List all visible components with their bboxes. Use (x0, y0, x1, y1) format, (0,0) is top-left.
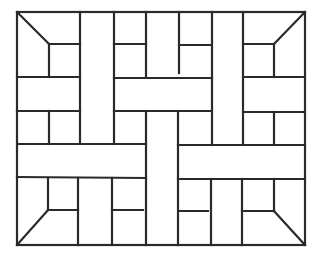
diagram-canvas: Basket-weave parquet tile pattern (0, 0, 318, 263)
pattern-line (274, 211, 305, 245)
pattern-line (17, 12, 49, 44)
pattern-line (274, 12, 305, 44)
basket-weave-pattern: Basket-weave parquet tile pattern (0, 0, 318, 263)
pattern-lines (17, 12, 305, 245)
pattern-line (17, 210, 48, 245)
pattern-line (17, 177, 146, 178)
